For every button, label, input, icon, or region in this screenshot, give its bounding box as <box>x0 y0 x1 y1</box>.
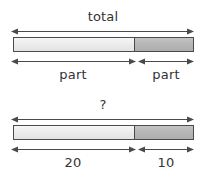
part2-label: part <box>126 67 204 82</box>
total-span-arrow <box>11 27 194 36</box>
value-10-span-arrow <box>138 145 194 154</box>
value-10-label-text: 10 <box>158 155 175 170</box>
bottom-bar-segment-10 <box>134 126 193 139</box>
value-20-label-text: 20 <box>65 155 82 170</box>
bottom-bar-segment-20 <box>14 126 134 139</box>
part1-span-arrow <box>11 57 136 66</box>
total-label-text: total <box>88 9 119 24</box>
value-20-label: 20 <box>33 155 113 170</box>
unknown-total-span-arrow <box>11 115 194 124</box>
part1-label: part <box>33 67 113 82</box>
value-20-span-arrow <box>11 145 136 154</box>
top-bar-segment-part-2 <box>134 38 193 51</box>
part2-span-arrow <box>138 57 194 66</box>
bar-model-diagram: total part part ? <box>0 0 204 173</box>
bottom-bar <box>13 125 194 140</box>
part1-label-text: part <box>59 67 86 82</box>
unknown-total-label: ? <box>63 97 143 112</box>
top-bar-segment-part-1 <box>14 38 134 51</box>
value-10-label: 10 <box>126 155 204 170</box>
part2-label-text: part <box>152 67 179 82</box>
total-label: total <box>63 9 143 24</box>
unknown-total-label-text: ? <box>99 97 106 112</box>
top-bar <box>13 37 194 52</box>
